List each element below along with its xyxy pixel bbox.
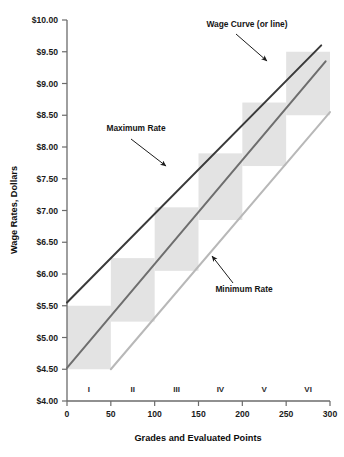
annotation-maximum-rate-arrow — [131, 139, 166, 166]
y-tick-label: $9.00 — [36, 79, 58, 89]
grade-label-ii: II — [131, 385, 135, 394]
annotation-wage-curve-label: Wage Curve (or line) — [206, 19, 287, 29]
y-axis-ticks: $4.00$4.50$5.00$5.50$6.00$6.50$7.00$7.50… — [32, 15, 67, 406]
annotation-minimum-rate-arrow — [212, 256, 233, 283]
x-tick-label: 300 — [323, 409, 338, 419]
y-tick-label: $9.50 — [36, 47, 58, 57]
annotation-minimum-rate-label: Minimum Rate — [215, 284, 273, 294]
annotation-minimum-rate: Minimum Rate — [212, 256, 273, 294]
y-tick-label: $4.00 — [36, 396, 58, 406]
wage-structure-chart: $4.00$4.50$5.00$5.50$6.00$6.50$7.00$7.50… — [0, 0, 344, 457]
y-tick-label: $8.00 — [36, 142, 58, 152]
y-tick-label: $7.50 — [36, 174, 58, 184]
y-tick-label: $6.50 — [36, 237, 58, 247]
y-tick-label: $5.50 — [36, 301, 58, 311]
y-tick-label: $5.00 — [36, 333, 58, 343]
grade-label-iv: IV — [217, 385, 225, 394]
x-tick-label: 0 — [65, 409, 70, 419]
annotation-maximum-rate: Maximum Rate — [106, 123, 166, 166]
annotation-maximum-rate-label: Maximum Rate — [106, 123, 165, 133]
annotation-wage-curve-arrow — [236, 34, 267, 61]
grade-label-iii: III — [173, 385, 180, 394]
x-axis-ticks: 050100150200250300 — [65, 401, 338, 419]
grade-label-v: V — [262, 385, 268, 394]
chart-canvas: $4.00$4.50$5.00$5.50$6.00$6.50$7.00$7.50… — [0, 0, 344, 457]
x-tick-label: 50 — [106, 409, 116, 419]
grade-label-vi: VI — [304, 385, 312, 394]
x-tick-label: 150 — [191, 409, 206, 419]
series-line-minimum-rate — [111, 112, 330, 369]
annotation-wage-curve: Wage Curve (or line) — [206, 19, 287, 61]
y-tick-label: $8.50 — [36, 110, 58, 120]
x-tick-label: 250 — [279, 409, 294, 419]
grade-labels: IIIIIIIVVVI — [88, 385, 312, 394]
y-tick-label: $4.50 — [36, 364, 58, 374]
y-tick-label: $6.00 — [36, 269, 58, 279]
y-axis-title: Wage Rates, Dollars — [9, 166, 19, 254]
grade-label-i: I — [88, 385, 90, 394]
x-tick-label: 200 — [235, 409, 250, 419]
x-axis-title: Grades and Evaluated Points — [134, 433, 261, 443]
y-tick-label: $10.00 — [32, 15, 59, 25]
y-tick-label: $7.00 — [36, 206, 58, 216]
series-line-wage-curve-or-line — [67, 61, 326, 368]
x-tick-label: 100 — [147, 409, 162, 419]
